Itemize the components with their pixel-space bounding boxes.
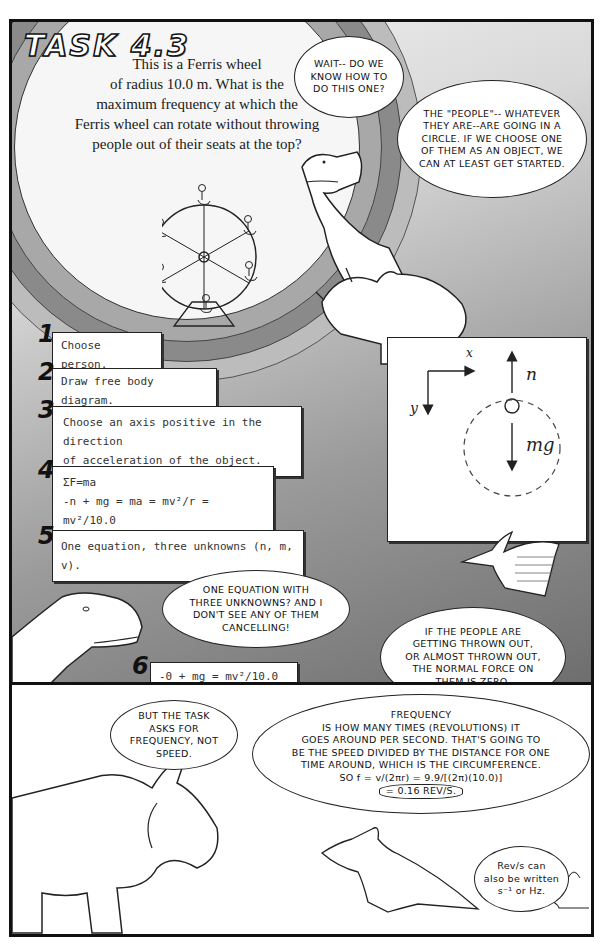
problem-line: maximum frequency at which the [52,94,342,114]
x-axis-label: x [466,346,473,360]
normal-force-label: n [526,364,537,384]
speech-bubble-wait: WAIT-- DO WE KNOW HOW TO DO THIS ONE? [294,36,404,118]
bubble-answer: = 0.16 REV/S. [379,784,463,799]
bubble-line: TIME AROUND, WHICH IS THE CIRCUMFERENCE. [301,759,541,772]
step-number: 6 [132,652,149,680]
speech-bubble-but-the-task: BUT THE TASK ASKS FOR FREQUENCY, NOT SPE… [110,700,238,770]
step-text: Choose an axis positive in the direction [63,413,291,451]
problem-line: Ferris wheel can rotate without throwing [52,114,342,134]
t-rex-head-illustration [12,587,152,685]
speech-bubble-people: THE "PEOPLE"-- WHATEVER THEY ARE--ARE GO… [397,80,587,198]
step-text: -0 + mg = mv²/10.0 [159,667,289,685]
bubble-line: SO f = v/(2πr) = 9.9/[(2π)(10.0)] [339,772,502,785]
pterodactyl-large-illustration [312,813,482,923]
bubble-line: Rev/s can [497,860,546,873]
bottom-panel: BUT THE TASK ASKS FOR FREQUENCY, NOT SPE… [12,688,591,934]
step-text: Draw free body diagram. [61,372,208,410]
comic-page: TASK 4.3 This is a Ferris wheel of radiu… [9,19,594,937]
speech-bubble-thrown-out: IF THE PEOPLE ARE GETTING THROWN OUT, OR… [380,607,566,685]
free-body-diagram: x y n mg [387,337,587,542]
bubble-line: GOES AROUND PER SECOND. THAT'S GOING TO [301,734,540,747]
free-body-diagram-drawing [388,338,588,543]
bubble-line: also be written [484,873,559,886]
speech-bubble-rev-s: Rev/s can also be written s⁻¹ or Hz. [474,846,569,912]
bubble-line: IS HOW MANY TIMES (REVOLUTIONS) IT [322,722,520,735]
step-text: ΣF=ma [63,473,263,492]
object-circle [505,399,519,413]
step-box-4: ΣF=ma -n + mg = ma = mv²/r = mv²/10.0 [52,466,274,537]
top-panel: TASK 4.3 This is a Ferris wheel of radiu… [12,22,591,685]
y-axis-label: y [410,400,418,416]
triceratops-large-illustration [12,748,252,934]
bubble-line: BE THE SPEED DIVIDED BY THE DISTANCE FOR… [292,747,550,760]
step-text: -n + mg = ma = mv²/r = mv²/10.0 [63,492,263,530]
ferris-wheel-illustration [162,162,312,332]
bubble-line: FREQUENCY [391,709,452,722]
bubble-line: s⁻¹ or Hz. [498,885,546,898]
speech-bubble-one-equation: ONE EQUATION WITH THREE UNKNOWNS? AND I … [162,570,350,648]
weight-label: mg [526,434,555,455]
step-box-6: -0 + mg = mv²/10.0 g = v²/10.0; v = 9.9 [150,662,298,685]
speech-bubble-frequency: FREQUENCY IS HOW MANY TIMES (REVOLUTIONS… [252,694,590,814]
pterodactyl-illustration [457,527,567,607]
